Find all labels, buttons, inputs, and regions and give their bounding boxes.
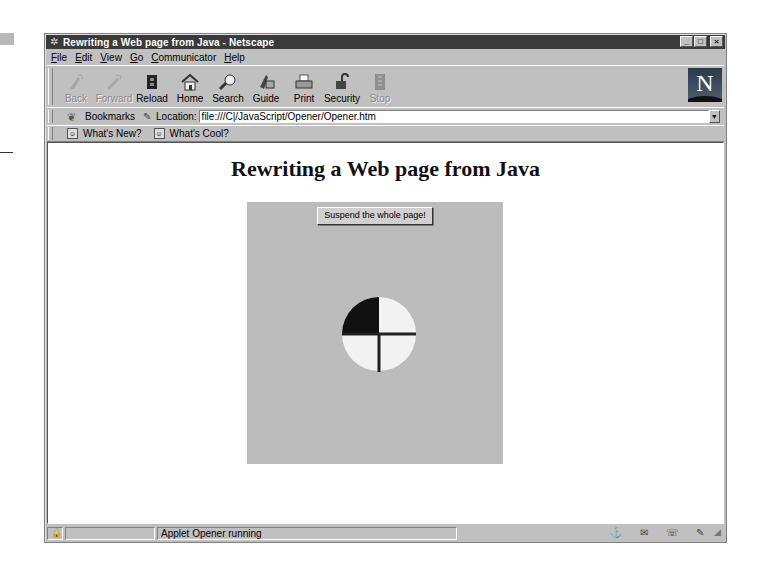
back-arrow-icon xyxy=(66,73,86,91)
status-message: Applet Opener running xyxy=(157,527,457,540)
component-bar: ⚓ ✉ ☏ ✎ ◢ xyxy=(602,527,724,539)
page-heading: Rewriting a Web page from Java xyxy=(48,156,723,182)
print-button[interactable]: Print xyxy=(285,68,323,104)
background-decoration-line xyxy=(0,152,13,153)
chevron-down-icon: ▼ xyxy=(711,113,718,120)
close-button[interactable]: × xyxy=(710,36,723,47)
menu-help[interactable]: Help xyxy=(220,52,249,63)
whats-new-button[interactable]: ☺ What's New? xyxy=(67,128,142,139)
window-controls: _ □ × xyxy=(680,36,723,47)
guide-icon xyxy=(256,73,276,91)
menu-view[interactable]: View xyxy=(96,52,126,63)
menu-bar: File Edit View Go Communicator Help xyxy=(47,50,724,64)
home-icon xyxy=(180,73,200,91)
personal-toolbar-grip[interactable] xyxy=(48,127,53,140)
browser-window: ✲ Rewriting a Web page from Java - Netsc… xyxy=(44,33,727,543)
url-history-dropdown[interactable]: ▼ xyxy=(709,110,720,123)
reload-button[interactable]: Reload xyxy=(133,68,171,104)
security-status-icon[interactable]: 🔓 xyxy=(47,527,63,540)
guide-button[interactable]: Guide xyxy=(247,68,285,104)
stop-icon xyxy=(370,73,390,91)
maximize-button[interactable]: □ xyxy=(694,36,707,47)
menu-go[interactable]: Go xyxy=(126,52,147,63)
page-proxy-icon[interactable]: ✎ xyxy=(143,111,153,122)
mailbox-icon[interactable]: ✉ xyxy=(634,527,654,539)
location-toolbar: ❦ Bookmarks ✎ Location: file:///C|/JavaS… xyxy=(47,107,724,126)
navigation-toolbar: Back Forward Reload Home Search Guide xyxy=(47,65,724,108)
suspend-page-button[interactable]: Suspend the whole page! xyxy=(317,207,433,225)
status-bar: 🔓 Applet Opener running ⚓ ✉ ☏ ✎ ◢ xyxy=(47,525,724,541)
title-bar[interactable]: ✲ Rewriting a Web page from Java - Netsc… xyxy=(46,35,725,49)
personal-toolbar: ☺ What's New? ☺ What's Cool? xyxy=(47,125,724,142)
clock-animation xyxy=(341,296,417,372)
discussion-groups-icon[interactable]: ☏ xyxy=(662,527,682,539)
whats-cool-button[interactable]: ☺ What's Cool? xyxy=(154,128,229,139)
home-button[interactable]: Home xyxy=(171,68,209,104)
stop-button[interactable]: Stop xyxy=(361,68,399,104)
print-icon xyxy=(294,73,314,91)
back-button[interactable]: Back xyxy=(57,68,95,104)
bookmarks-button[interactable]: ❦ Bookmarks xyxy=(67,111,135,123)
window-title: Rewriting a Web page from Java - Netscap… xyxy=(63,37,274,48)
security-lock-icon xyxy=(332,73,352,91)
menu-edit[interactable]: Edit xyxy=(71,52,96,63)
netscape-logo-throbber[interactable]: N xyxy=(688,68,722,102)
minimize-button[interactable]: _ xyxy=(680,36,693,47)
netscape-app-icon: ✲ xyxy=(48,36,60,48)
bookmark-page-icon: ☺ xyxy=(67,128,78,139)
background-decoration-block xyxy=(0,33,14,45)
reload-icon xyxy=(142,73,162,91)
bookmarks-icon: ❦ xyxy=(67,111,81,123)
url-input[interactable]: file:///C|/JavaScript/Opener/Opener.htm xyxy=(199,110,709,123)
bookmark-page-icon: ☺ xyxy=(154,128,165,139)
location-toolbar-grip[interactable] xyxy=(48,110,53,123)
throbber-horizon xyxy=(688,96,722,102)
forward-arrow-icon xyxy=(104,73,124,91)
security-button[interactable]: Security xyxy=(323,68,361,104)
search-icon xyxy=(218,73,238,91)
progress-bar xyxy=(65,527,155,540)
toolbar-grip[interactable] xyxy=(48,68,53,105)
page-content: Rewriting a Web page from Java Suspend t… xyxy=(47,142,724,524)
java-applet[interactable]: Suspend the whole page! xyxy=(247,202,503,464)
menu-file[interactable]: File xyxy=(47,52,71,63)
navigator-icon[interactable]: ⚓ xyxy=(606,527,626,539)
resize-grip[interactable]: ◢ xyxy=(714,527,724,539)
search-button[interactable]: Search xyxy=(209,68,247,104)
location-label: ✎ Location: xyxy=(143,111,197,122)
forward-button[interactable]: Forward xyxy=(95,68,133,104)
composer-icon[interactable]: ✎ xyxy=(690,527,710,539)
menu-communicator[interactable]: Communicator xyxy=(147,52,220,63)
